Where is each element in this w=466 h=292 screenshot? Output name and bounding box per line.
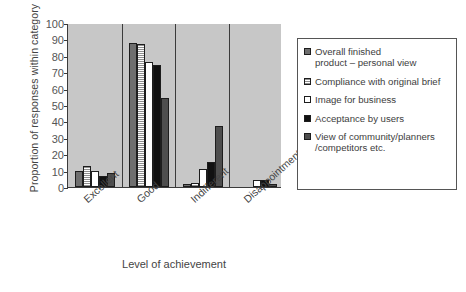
group-separator (122, 24, 123, 187)
legend-swatch-icon (304, 78, 311, 85)
legend-swatch-icon (304, 96, 311, 103)
legend-label: Compliance with original brief (315, 76, 440, 87)
y-tick-60: 60 (52, 84, 64, 95)
y-tick-100: 100 (46, 19, 64, 30)
legend-item[interactable]: Image for business (304, 94, 450, 105)
bar-group-disappointment (230, 24, 284, 187)
y-tick-mark (64, 24, 68, 25)
legend-item[interactable]: Acceptance by users (304, 113, 450, 124)
x-axis-tick-labels: ExcellentGoodIndifferentDisappointment (67, 190, 281, 250)
legend-swatch-icon (304, 115, 311, 122)
bar[interactable] (129, 43, 137, 187)
bar[interactable] (137, 44, 145, 187)
bar[interactable] (145, 62, 153, 187)
y-tick-mark (64, 155, 68, 156)
y-tick-70: 70 (52, 68, 64, 79)
y-tick-80: 80 (52, 51, 64, 62)
y-tick-40: 40 (52, 117, 64, 128)
plot-area (67, 24, 281, 188)
bar[interactable] (75, 171, 83, 187)
legend-item[interactable]: View of community/planners /competitors … (304, 131, 450, 154)
y-tick-mark (64, 57, 68, 58)
group-separator (175, 24, 176, 187)
y-tick-90: 90 (52, 35, 64, 46)
bar[interactable] (183, 184, 191, 187)
legend-swatch-icon (304, 133, 311, 140)
legend-swatch-icon (304, 48, 311, 55)
y-tick-mark (64, 172, 68, 173)
y-tick-20: 20 (52, 150, 64, 161)
bar[interactable] (153, 65, 161, 187)
chart-legend: Overall finished product – personal view… (297, 38, 457, 190)
y-axis-tick-labels: 0102030405060708090100 (40, 22, 64, 190)
bar-group-good (122, 24, 176, 187)
legend-label: Overall finished product – personal view (315, 46, 416, 69)
legend-label: View of community/planners /competitors … (315, 131, 435, 154)
y-tick-mark (64, 188, 68, 189)
group-separator (229, 24, 230, 187)
y-axis-title: Proportion of responses within category (28, 0, 40, 208)
legend-item[interactable]: Overall finished product – personal view (304, 46, 450, 69)
bar[interactable] (83, 166, 91, 187)
y-tick-mark (64, 122, 68, 123)
bar-group-indifferent (176, 24, 230, 187)
y-tick-10: 10 (52, 166, 64, 177)
y-tick-mark (64, 73, 68, 74)
chart-figure: Proportion of responses within category … (0, 0, 466, 292)
bar[interactable] (161, 98, 169, 187)
x-axis-title: Level of achievement (67, 258, 281, 270)
y-tick-mark (64, 139, 68, 140)
legend-item[interactable]: Compliance with original brief (304, 76, 450, 87)
y-tick-50: 50 (52, 101, 64, 112)
legend-label: Image for business (315, 94, 396, 105)
y-tick-mark (64, 106, 68, 107)
y-tick-30: 30 (52, 133, 64, 144)
y-tick-mark (64, 40, 68, 41)
legend-label: Acceptance by users (315, 113, 404, 124)
bar-group-excellent (68, 24, 122, 187)
y-tick-mark (64, 90, 68, 91)
